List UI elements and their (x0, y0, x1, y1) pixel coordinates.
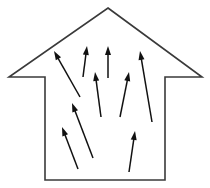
diagram-canvas (0, 0, 210, 188)
house-airflow-diagram (0, 0, 210, 188)
background (0, 0, 210, 188)
